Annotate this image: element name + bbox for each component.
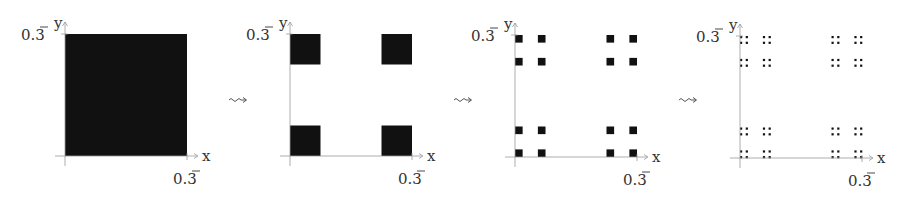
cantor-square [763,42,765,44]
cantor-square [65,34,187,156]
cantor-square [629,58,637,66]
svg-text:0.3: 0.3 [696,28,720,46]
cantor-square [860,42,862,44]
cantor-square [515,127,523,135]
cantor-square [629,149,637,157]
cantor-square [832,59,834,61]
cantor-square [860,133,862,135]
cantor-square [538,58,546,66]
panel-iteration-2: xy0.30.3 [471,15,661,189]
cantor-square [763,65,765,67]
cantor-square [837,133,839,135]
cantor-square [854,36,856,38]
cantor-square [746,42,748,44]
transition-arrow-icon [679,98,697,103]
cantor-square [290,126,321,157]
cantor-square [538,149,546,157]
cantor-dust-diagram: xy0.30.3xy0.30.3xy0.30.3xy0.30.3 [0,0,919,200]
y-axis-label: y [503,15,513,33]
cantor-square [837,150,839,152]
cantor-square [769,42,771,44]
cantor-square [832,42,834,44]
cantor-square [538,127,546,135]
cantor-squares [290,34,412,156]
cantor-square [746,65,748,67]
cantor-square [746,133,748,135]
cantor-square [769,150,771,152]
cantor-square [515,149,523,157]
cantor-square [763,59,765,61]
y-axis-label: y [278,14,288,32]
x-axis-label: x [877,149,886,167]
x-axis-label: x [427,147,436,165]
y-axis-label: y [53,14,63,32]
cantor-square [746,150,748,152]
cantor-square [854,42,856,44]
cantor-square [837,42,839,44]
y-tick-label: 0.3 [246,26,273,44]
svg-text:0.3: 0.3 [246,26,270,44]
cantor-square [769,59,771,61]
panel-iteration-0: xy0.30.3 [21,14,211,188]
x-tick-label: 0.3 [173,170,200,188]
cantor-square [860,65,862,67]
cantor-square [854,59,856,61]
x-axis-label: x [202,147,211,165]
cantor-square [629,127,637,135]
svg-text:0.3: 0.3 [173,170,197,188]
cantor-square [515,35,523,43]
cantor-square [832,150,834,152]
transition-arrow-icon [229,98,247,103]
cantor-squares [740,36,862,158]
cantor-square [837,128,839,130]
cantor-square [854,133,856,135]
cantor-square [832,36,834,38]
svg-text:0.3: 0.3 [471,27,495,45]
cantor-square [854,150,856,152]
cantor-square [746,128,748,130]
x-tick-label: 0.3 [848,172,875,190]
svg-text:0.3: 0.3 [398,170,422,188]
cantor-square [763,128,765,130]
cantor-squares [65,34,187,156]
cantor-square [769,65,771,67]
cantor-square [607,127,615,135]
y-tick-label: 0.3 [696,28,723,46]
cantor-square [746,59,748,61]
cantor-square [832,65,834,67]
cantor-square [746,36,748,38]
cantor-square [832,128,834,130]
svg-text:0.3: 0.3 [848,172,872,190]
cantor-square [763,150,765,152]
cantor-square [860,59,862,61]
x-axis-label: x [652,148,661,166]
cantor-square [837,36,839,38]
cantor-square [629,35,637,43]
cantor-square [763,133,765,135]
cantor-square [854,128,856,130]
y-axis-label: y [728,16,738,34]
cantor-square [837,59,839,61]
y-tick-label: 0.3 [21,26,48,44]
x-tick-label: 0.3 [398,170,425,188]
x-tick-label: 0.3 [623,171,650,189]
cantor-square [290,34,321,65]
cantor-square [769,128,771,130]
cantor-square [860,128,862,130]
svg-text:0.3: 0.3 [623,171,647,189]
cantor-square [832,133,834,135]
cantor-square [854,65,856,67]
cantor-square [538,35,546,43]
cantor-square [607,58,615,66]
cantor-square [382,126,413,157]
cantor-squares [515,35,637,157]
panel-iteration-1: xy0.30.3 [246,14,436,188]
cantor-square [763,36,765,38]
cantor-square [607,149,615,157]
cantor-square [837,65,839,67]
cantor-square [860,150,862,152]
cantor-square [382,34,413,65]
panel-iteration-3: xy0.30.3 [696,16,886,190]
cantor-square [769,133,771,135]
cantor-square [607,35,615,43]
